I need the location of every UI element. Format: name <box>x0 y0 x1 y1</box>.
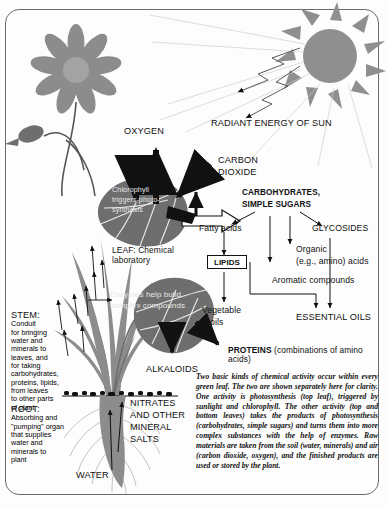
stem-description: STEM: Conduit for bringing water and min… <box>11 310 87 412</box>
flower-graphic <box>5 24 123 146</box>
stem-graphic <box>44 102 95 196</box>
label-nitrates-line4: SALTS <box>130 434 159 444</box>
label-leaf-line1: LEAF: Chemical <box>112 246 174 255</box>
label-nitrates-line3: MINERAL <box>130 422 172 432</box>
label-nitrates-line1: NITRATES <box>130 398 176 408</box>
label-carbohydrates-line1: CARBOHYDRATES, <box>242 188 320 197</box>
caption-text: Two basic kinds of chemical activity occ… <box>196 372 378 471</box>
sun-icon <box>150 2 386 168</box>
label-vegetable-line1: Vegetable <box>202 306 241 316</box>
label-oxygen: OXYGEN <box>124 126 164 136</box>
root-description: ROOT: Absorbing and "pumping" organ that… <box>11 404 95 464</box>
label-organic-line1: Organic <box>296 245 327 255</box>
diagram-page: OXYGEN CARBON DIOXIDE RADIANT ENERGY OF … <box>0 0 388 507</box>
label-leaf-line2: laboratory <box>112 256 150 265</box>
label-aromatic-compounds: Aromatic compounds <box>272 276 355 286</box>
label-chlorophyll-line2: triggers photo- <box>112 196 160 204</box>
label-vegetable-line2: oils <box>210 318 223 328</box>
label-enzymes-line1: Enzymes help build <box>110 290 181 299</box>
label-fatty-acids: Fatty acids <box>199 224 242 234</box>
label-water: WATER <box>76 470 109 480</box>
label-carbohydrates-line2: SIMPLE SUGARS <box>242 200 311 209</box>
label-carbon-dioxide-line1: CARBON <box>218 155 258 165</box>
label-enzymes-line2: complex compounds <box>110 301 185 310</box>
label-chlorophyll-line1: Chlorophyll <box>112 186 149 194</box>
label-alkaloids: ALKALOIDS <box>146 364 198 374</box>
label-chlorophyll-line3: synthesis <box>112 206 143 214</box>
label-essential-oils: ESSENTIAL OILS <box>296 312 371 322</box>
label-lipids: LIPIDS <box>207 255 247 269</box>
label-carbon-dioxide-line2: DIOXIDE <box>218 167 256 177</box>
label-radiant-energy: RADIANT ENERGY OF SUN <box>211 118 332 128</box>
root-line-5: plant <box>11 456 95 464</box>
label-organic-line2: (e.g., amino) acids <box>296 257 369 267</box>
label-glycosides: GLYCOSIDES <box>312 224 368 234</box>
label-nitrates-line2: AND OTHER <box>130 410 185 420</box>
label-proteins: PROTEINS (combinations of amino acids) <box>228 346 388 365</box>
